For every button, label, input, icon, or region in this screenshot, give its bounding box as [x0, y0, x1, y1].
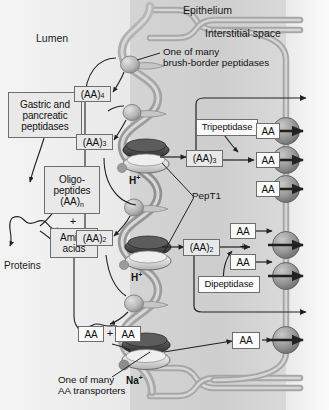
aa4-text: (AA) — [81, 89, 101, 100]
oligo-line2: peptides — [53, 185, 90, 196]
interstitial-space-label: Interstitial space — [205, 28, 281, 40]
gastric-line2: pancreatic — [22, 110, 67, 121]
aa3-cell-text: (AA) — [193, 153, 213, 164]
aa-cell-box-4: AA — [230, 223, 256, 239]
h-ion-label-upper: H+ — [129, 174, 140, 187]
h-ion-dot-lower — [119, 260, 128, 269]
na-ion-label: Na+ — [126, 374, 143, 387]
aa-cell-box-6: AA — [232, 332, 260, 349]
oligopeptides-box: Oligo- peptides (AA)n — [44, 166, 100, 214]
gastric-pancreatic-peptidases-box: Gastric and pancreatic peptidases — [8, 92, 82, 138]
aa-transporter-note-line1: One of many — [58, 374, 126, 385]
dipeptidase-box: Dipeptidase — [198, 276, 260, 293]
proteins-label: Proteins — [4, 260, 41, 271]
oligo-aa-text: (AA) — [60, 196, 80, 207]
aa-transporter-note-line2: AA transporters — [58, 385, 126, 396]
aa-cell-box-5: AA — [230, 254, 256, 270]
aa2-cell-box: (AA)2 — [183, 239, 220, 256]
h-ion-charge-upper: + — [136, 174, 140, 181]
aa3-cell-box: (AA)3 — [186, 150, 223, 167]
h-ion-charge-lower: + — [138, 271, 142, 278]
pept1-transporter-upper — [123, 139, 169, 173]
oligo-line3: (AA)n — [60, 196, 83, 207]
h-ion-dot-upper — [117, 163, 126, 172]
lumen-label: Lumen — [36, 33, 68, 45]
aa-transporter-note: One of many AA transporters — [58, 374, 126, 397]
na-ion-text: Na — [126, 375, 139, 386]
na-ion-charge: + — [139, 374, 143, 381]
aa3-lumen-text: (AA) — [83, 137, 103, 148]
gastric-line3: peptidases — [21, 121, 68, 132]
aa-cell-box-1: AA — [256, 123, 280, 139]
pept1-transporter-lower — [125, 236, 171, 270]
aa2-cell-text: (AA) — [190, 242, 210, 253]
diagram-canvas: Lumen Epithelium Interstitial space One … — [0, 0, 329, 410]
aa2-lumen-box: (AA)2 — [76, 230, 113, 246]
aa2-cell-subscript: 2 — [209, 246, 213, 254]
brush-border-note-line2: brush-border peptidases — [163, 57, 269, 68]
h-ion-label-lower: H+ — [131, 271, 142, 284]
na-ion-dot — [119, 360, 129, 370]
gastric-line1: Gastric and — [20, 99, 70, 110]
plus-oligo-amino: + — [66, 215, 80, 227]
tripeptidase-box: Tripeptidase — [196, 119, 258, 136]
aa3-cell-subscript: 3 — [212, 157, 216, 165]
aa3-lumen-subscript: 3 — [102, 140, 106, 148]
plus-aa-pair-cell: + — [236, 240, 250, 252]
oligo-line1: Oligo- — [59, 174, 85, 185]
aa-cell-box-3: AA — [256, 181, 280, 197]
epithelium-label: Epithelium — [183, 5, 232, 17]
aa4-box: (AA)4 — [74, 86, 111, 102]
pept1-label: PepT1 — [192, 190, 221, 201]
brush-border-note-line1: One of many — [163, 46, 269, 57]
aa-lumen-box-left: AA — [78, 326, 104, 342]
aa4-subscript: 4 — [100, 92, 104, 100]
aa-lumen-text-left: AA — [84, 329, 97, 340]
aa-lumen-box-right: AA — [115, 326, 141, 342]
aa-lumen-text-right: AA — [121, 329, 134, 340]
aa3-lumen-box: (AA)3 — [76, 134, 113, 150]
aa2-lumen-text: (AA) — [83, 233, 103, 244]
aa-cell-box-2: AA — [256, 152, 280, 168]
aa2-lumen-subscript: 2 — [102, 236, 106, 244]
oligo-subscript: n — [80, 201, 84, 208]
brush-border-note: One of many brush-border peptidases — [163, 46, 269, 69]
